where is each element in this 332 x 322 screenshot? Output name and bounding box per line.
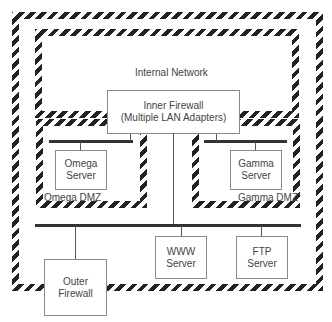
inner-firewall-trunk — [173, 133, 174, 225]
omega-server: OmegaServer — [55, 150, 107, 190]
outer-firewall: OuterFirewall — [44, 259, 107, 316]
gamma-dmz-label: Gamma DMZ — [238, 192, 298, 203]
internal-network-label: Internal Network — [135, 67, 208, 78]
omega-dmz-label: Omega DMZ — [44, 192, 101, 203]
outer-firewall-link — [75, 226, 76, 260]
gamma-bus-to-firewall — [216, 133, 217, 141]
www-server-link — [181, 226, 182, 236]
www-server: WWWServer — [155, 236, 207, 279]
gamma-server: GammaServer — [230, 150, 282, 190]
ftp-server-link — [261, 226, 262, 236]
omega-bus-to-firewall — [130, 133, 131, 141]
ftp-server: FTPServer — [236, 236, 288, 279]
omega-bus — [49, 140, 133, 143]
inner-firewall: Inner Firewall(Multiple LAN Adapters) — [107, 90, 240, 134]
